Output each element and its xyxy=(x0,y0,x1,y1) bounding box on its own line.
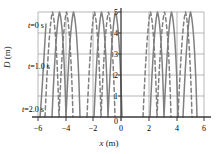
wave-t2-solid xyxy=(150,12,178,117)
annotation-t0-value: 0 s xyxy=(35,21,44,30)
xticklabel-5: 4 xyxy=(175,124,179,133)
xticklabel-4: 2 xyxy=(147,124,151,133)
yticklabel-1: 1 xyxy=(114,92,118,101)
xticklabel-0: −6 xyxy=(34,124,43,133)
xticklabel-2: −2 xyxy=(89,124,98,133)
yticklabel-3: 3 xyxy=(114,50,118,59)
yticklabel-5: 5 xyxy=(114,8,118,17)
y-axis-title-unit: (m) xyxy=(2,46,12,59)
xticklabel-1: −4 xyxy=(62,124,71,133)
y-axis-title-var: D xyxy=(2,61,12,68)
annotation-t1-value: 1.0 s xyxy=(35,62,50,71)
wave-snapshot-figure: −6 −4 −2 0 2 4 6 0 1 2 3 4 5 t=0 s t=1.0… xyxy=(0,0,218,154)
y-axis-title: D (m) xyxy=(2,34,12,80)
xticklabel-6: 6 xyxy=(202,124,206,133)
x-axis-title: x (m) xyxy=(0,138,218,148)
yticklabel-2: 2 xyxy=(114,71,118,80)
xticklabel-3: 0 xyxy=(119,124,123,133)
annotation-t2-value: 2.0 s xyxy=(29,105,44,114)
x-axis-title-unit: (m) xyxy=(106,138,119,148)
wave-curves xyxy=(40,12,197,117)
annotation-t1: t=1.0 s xyxy=(28,62,50,71)
wave-t1-solid xyxy=(94,12,122,117)
annotation-t0: t=0 s xyxy=(28,21,44,30)
yticklabel-4: 4 xyxy=(114,29,118,38)
x-tick-labels: −6 −4 −2 0 2 4 6 xyxy=(34,124,206,133)
yticklabel-0: 0 xyxy=(114,117,118,126)
x-axis-title-var: x xyxy=(99,138,103,148)
annotation-t2: t=2.0 s xyxy=(22,105,44,114)
